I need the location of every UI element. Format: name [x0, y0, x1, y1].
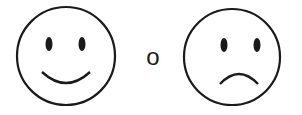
sad-face-icon [184, 9, 280, 105]
happy-face-icon [17, 7, 115, 105]
connector-text: o [143, 42, 163, 72]
